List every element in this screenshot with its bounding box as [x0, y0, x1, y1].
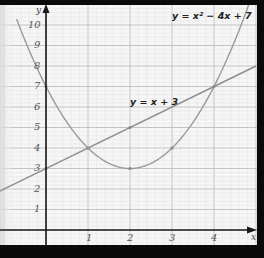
y-tick-1: 1 [34, 203, 40, 214]
bottom-border [0, 245, 264, 258]
edge-shading [0, 5, 14, 245]
y-tick-7: 7 [34, 80, 41, 91]
top-border [0, 0, 264, 5]
y-tick-8: 8 [34, 60, 40, 71]
chart-frame: y x 1 2 3 4 5 6 7 8 9 10 1 2 3 4 y = x² … [0, 0, 264, 258]
y-tick-6: 6 [34, 101, 41, 112]
graph-plot: y x 1 2 3 4 5 6 7 8 9 10 1 2 3 4 y = x² … [0, 0, 264, 258]
parabola-equation-label: y = x² − 4x + 7 [172, 10, 252, 21]
x-axis-label: x [251, 232, 256, 242]
data-point [128, 167, 131, 170]
data-point [86, 146, 89, 149]
y-axis-label: y [35, 5, 42, 15]
data-point [170, 146, 173, 149]
data-point [128, 126, 131, 129]
right-border [257, 0, 264, 258]
y-tick-9: 9 [34, 39, 41, 50]
x-tick-1: 1 [86, 232, 92, 243]
y-tick-3: 3 [34, 162, 40, 173]
y-tick-2: 2 [33, 183, 40, 194]
y-tick-4: 4 [33, 142, 40, 153]
line-equation-label: y = x + 3 [130, 96, 178, 107]
x-tick-3: 3 [169, 232, 175, 243]
y-tick-5: 5 [34, 121, 40, 132]
x-tick-2: 2 [126, 232, 133, 243]
y-tick-10: 10 [28, 19, 41, 30]
x-tick-4: 4 [210, 232, 217, 243]
data-point [212, 85, 215, 88]
